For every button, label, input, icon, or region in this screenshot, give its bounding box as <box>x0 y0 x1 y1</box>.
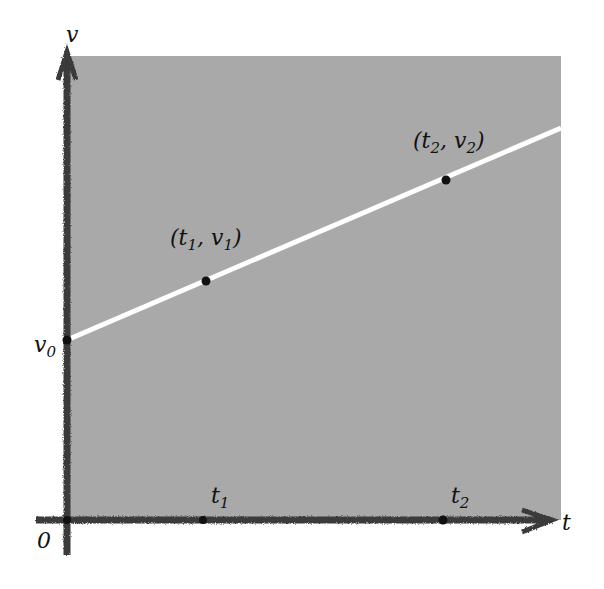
plot-area <box>68 56 561 520</box>
point-1 <box>202 277 211 286</box>
velocity-time-diagram: v t 0 v0 (t1, v1) (t2, v2) t1 t2 <box>0 0 604 589</box>
point-2 <box>442 176 451 185</box>
origin-label: 0 <box>37 528 51 553</box>
v0-point <box>63 336 72 345</box>
v0-label: v0 <box>34 332 56 361</box>
y-axis-label: v <box>66 22 79 47</box>
t2-tick-point <box>439 516 448 525</box>
t1-tick-point <box>199 516 207 524</box>
origin-point <box>63 516 71 524</box>
x-axis-label: t <box>562 510 571 535</box>
